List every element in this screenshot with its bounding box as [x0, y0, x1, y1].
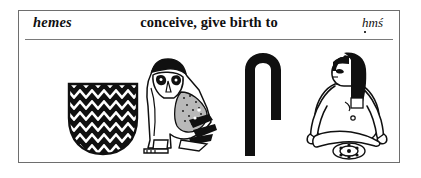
entry-header: hemes conceive, give birth to hmś	[19, 11, 399, 40]
animal-belly-icon	[65, 82, 141, 157]
owl-icon	[137, 48, 219, 158]
hieroglyph-row	[19, 40, 399, 162]
entry-card: hemes conceive, give birth to hmś	[18, 10, 400, 163]
transliteration: hmś	[362, 15, 383, 31]
woman-giving-birth-icon	[297, 44, 397, 162]
gloss-text: conceive, give birth to	[19, 14, 399, 31]
dictionary-entry-page: hemes conceive, give birth to hmś	[0, 0, 421, 178]
folded-cloth-icon	[235, 50, 293, 158]
